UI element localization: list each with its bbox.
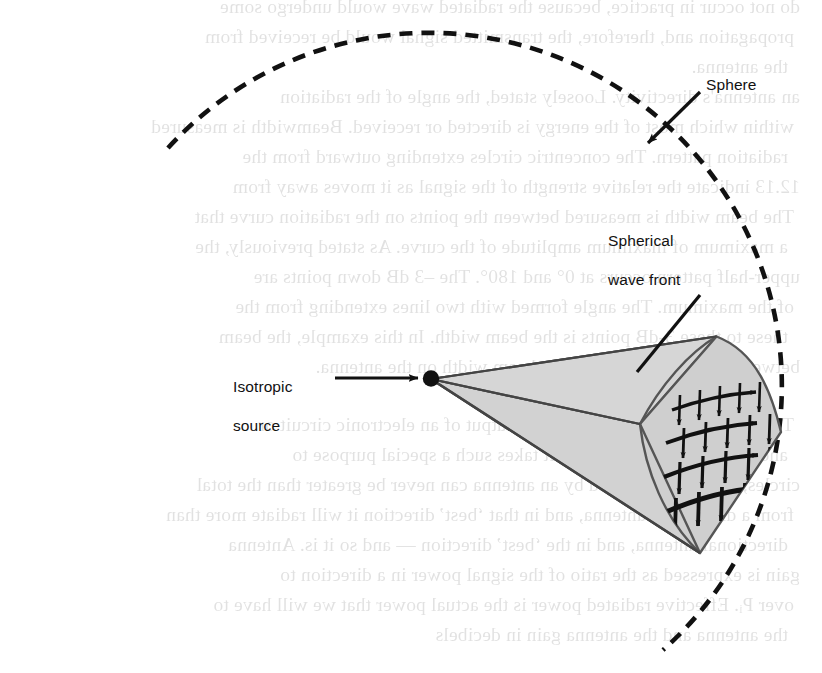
- spherical-wave-front-label-line2: wave front: [608, 270, 681, 289]
- spherical-wave-front-label-line1: Spherical: [608, 231, 681, 250]
- sphere-leader-arrow: [648, 92, 700, 143]
- isotropic-source-label-line2: source: [233, 416, 292, 435]
- figure-vector-layer: [0, 0, 822, 673]
- spherical-wave-front-label: Spherical wave front: [608, 212, 681, 309]
- sphere-label: Sphere: [706, 76, 757, 95]
- isotropic-source-dot: [423, 370, 439, 386]
- isotropic-source-label-line1: Isotropic: [233, 377, 292, 396]
- isotropic-source-label: Isotropic source: [233, 358, 292, 455]
- isotropic-source-figure: do not occur in practice, because the ra…: [0, 0, 822, 673]
